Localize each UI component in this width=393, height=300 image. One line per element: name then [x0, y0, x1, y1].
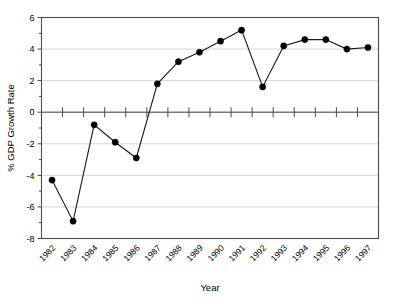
chart-canvas: 6420-2-4-6-8 198219831984198519861987198…	[0, 0, 393, 300]
y-tick-label: -2	[26, 139, 34, 149]
y-tick-label: -4	[26, 171, 34, 181]
data-point-marker	[49, 177, 55, 183]
data-point-marker	[260, 84, 266, 90]
y-tick-label: 4	[29, 44, 34, 54]
data-point-marker	[112, 139, 118, 145]
y-tick-label: -6	[26, 202, 34, 212]
data-point-marker	[302, 37, 308, 43]
gdp-growth-line-chart: 6420-2-4-6-8 198219831984198519861987198…	[0, 0, 393, 300]
y-tick-label: 6	[29, 13, 34, 23]
data-point-marker	[238, 27, 244, 33]
y-tick-label: 0	[29, 107, 34, 117]
x-axis-title: Year	[200, 282, 219, 293]
data-point-marker	[133, 155, 139, 161]
data-point-marker	[154, 81, 160, 87]
y-axis-title: % GDP Growth Rate	[5, 84, 16, 171]
data-point-marker	[91, 122, 97, 128]
y-tick-label: -8	[26, 234, 34, 244]
data-point-marker	[70, 218, 76, 224]
data-point-marker	[217, 38, 223, 44]
data-point-marker	[281, 43, 287, 49]
data-point-marker	[344, 46, 350, 52]
data-point-marker	[323, 37, 329, 43]
y-tick-label: 2	[29, 76, 34, 86]
data-point-marker	[196, 49, 202, 55]
data-point-marker	[175, 59, 181, 65]
data-point-marker	[365, 44, 371, 50]
